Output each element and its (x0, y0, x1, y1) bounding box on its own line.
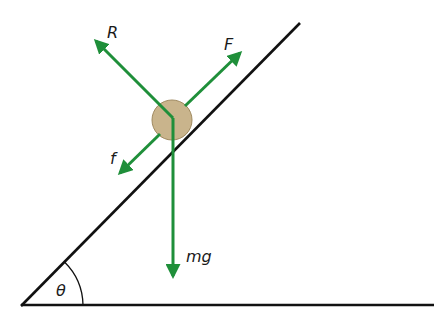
friction-label: f (110, 149, 118, 168)
friction-arrow (120, 134, 160, 173)
inclined-plane-diagram: θ R F f mg (0, 0, 434, 321)
angle-label: θ (56, 281, 66, 300)
incline-surface (21, 23, 300, 306)
normal-reaction-label: R (107, 23, 118, 42)
weight-label: mg (186, 247, 212, 266)
applied-force-label: F (224, 35, 234, 54)
normal-reaction-arrow (96, 41, 173, 118)
angle-arc (65, 262, 84, 305)
applied-force-arrow (185, 53, 240, 106)
